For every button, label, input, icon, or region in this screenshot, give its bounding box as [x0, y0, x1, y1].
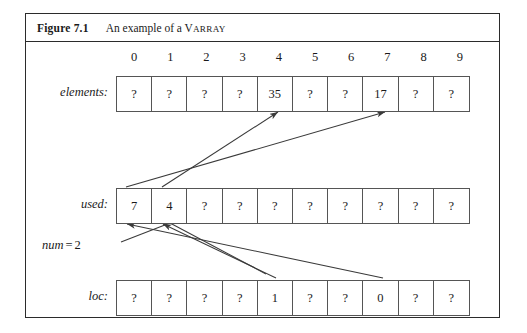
index-label-4: 4 — [261, 50, 297, 70]
row-label-loc: loc: — [26, 289, 108, 304]
loc-cell-1: ? — [152, 281, 187, 315]
elements-cell-9: ? — [434, 77, 469, 111]
figure-caption-text: An example of a VARRAY — [106, 22, 226, 34]
elements-cell-0: ? — [117, 77, 152, 111]
array-row-loc: ? ? ? ? 1 ? ? 0 ? ? — [116, 280, 470, 316]
used-cell-2: ? — [187, 189, 222, 223]
arrow-used1-to-elements4 — [162, 112, 278, 187]
loc-cell-8: ? — [399, 281, 434, 315]
used-cell-5: ? — [293, 189, 328, 223]
index-label-0: 0 — [116, 50, 152, 70]
index-label-6: 6 — [333, 50, 369, 70]
index-label-2: 2 — [188, 50, 224, 70]
loc-cell-4: 1 — [258, 281, 293, 315]
array-row-elements: ? ? ? ? 35 ? ? 17 ? ? — [116, 76, 470, 112]
index-label-5: 5 — [297, 50, 333, 70]
num-variable-value: 2 — [75, 238, 81, 252]
varray-diagram: 0 1 2 3 4 5 6 7 8 9 elements: ? ? ? ? 35… — [26, 42, 499, 317]
elements-cell-5: ? — [293, 77, 328, 111]
index-label-9: 9 — [442, 50, 478, 70]
used-cell-8: ? — [399, 189, 434, 223]
caption-smallcaps-text: ARRAY — [193, 24, 226, 34]
used-cell-6: ? — [328, 189, 363, 223]
used-cell-3: ? — [223, 189, 258, 223]
index-header-row: 0 1 2 3 4 5 6 7 8 9 — [116, 50, 478, 70]
figure-frame: Figure 7.1 An example of a VARRAY 0 — [25, 13, 500, 318]
num-variable-name: num — [42, 238, 64, 252]
elements-cell-4: 35 — [258, 77, 293, 111]
loc-cell-5: ? — [293, 281, 328, 315]
index-label-1: 1 — [152, 50, 188, 70]
index-label-8: 8 — [406, 50, 442, 70]
index-label-7: 7 — [369, 50, 405, 70]
used-cell-1: 4 — [152, 189, 187, 223]
used-cell-4: ? — [258, 189, 293, 223]
arrow-loc7-to-used0 — [127, 224, 383, 278]
loc-cell-9: ? — [434, 281, 469, 315]
num-variable-label: num=2 — [42, 238, 81, 253]
used-cell-0: 7 — [117, 189, 152, 223]
arrow-used0-to-elements7 — [126, 112, 385, 187]
elements-cell-8: ? — [399, 77, 434, 111]
loc-cell-7: 0 — [363, 281, 398, 315]
loc-cell-6: ? — [328, 281, 363, 315]
elements-cell-1: ? — [152, 77, 187, 111]
array-row-used: 7 4 ? ? ? ? ? ? ? ? — [116, 188, 470, 224]
loc-cell-2: ? — [187, 281, 222, 315]
row-label-elements: elements: — [26, 85, 108, 100]
figure-number-label: Figure 7.1 — [37, 22, 89, 34]
arrow-loc4-to-used1 — [163, 224, 276, 278]
used-cell-7: ? — [363, 189, 398, 223]
used-cell-9: ? — [434, 189, 469, 223]
elements-cell-3: ? — [223, 77, 258, 111]
caption-lead-text: An example of a V — [106, 22, 193, 34]
loc-cell-3: ? — [223, 281, 258, 315]
elements-cell-6: ? — [328, 77, 363, 111]
index-label-3: 3 — [225, 50, 261, 70]
figure-caption-bar: Figure 7.1 An example of a VARRAY — [26, 14, 499, 42]
elements-cell-7: 17 — [363, 77, 398, 111]
row-label-used: used: — [26, 197, 108, 212]
arrow-num-connector-right — [170, 223, 266, 274]
num-variable-operator: = — [64, 238, 75, 252]
elements-cell-2: ? — [187, 77, 222, 111]
arrow-num-to-used1 — [121, 223, 170, 242]
loc-cell-0: ? — [117, 281, 152, 315]
